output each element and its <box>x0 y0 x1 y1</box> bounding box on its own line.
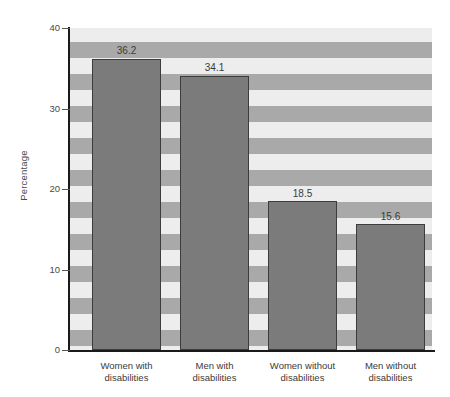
y-tick-mark-30 <box>62 109 70 110</box>
bar-value-men-with-disabilities: 34.1 <box>180 62 249 73</box>
x-axis-label-men-with-disabilities: Men with disabilities <box>165 360 264 383</box>
y-tick-label-40: 40 <box>26 23 60 33</box>
y-tick-mark-20 <box>62 189 70 190</box>
y-axis-title: Percentage <box>18 116 29 236</box>
y-tick-label-10: 10 <box>26 265 60 275</box>
y-tick-label-20: 20 <box>26 184 60 194</box>
bar-value-women-without-disabilities: 18.5 <box>268 188 337 199</box>
bar-men-with-disabilities[interactable] <box>180 76 249 351</box>
x-axis-label-women-with-disabilities: Women with disabilities <box>77 360 176 383</box>
x-axis-label-line-1: Men with <box>165 360 264 372</box>
x-axis-line <box>68 350 435 352</box>
y-tick-mark-40 <box>62 28 70 29</box>
x-axis-label-line-1: Women without <box>251 360 354 372</box>
x-axis-label-line-2: disabilities <box>77 372 176 384</box>
y-tick-mark-10 <box>62 270 70 271</box>
y-tick-label-30: 30 <box>26 104 60 114</box>
y-tick-label-0: 0 <box>26 345 60 355</box>
x-axis-label-women-without-disabilities: Women without disabilities <box>251 360 354 383</box>
bar-women-without-disabilities[interactable] <box>268 201 337 350</box>
bar-men-without-disabilities[interactable] <box>356 224 425 350</box>
x-axis-label-men-without-disabilities: Men without disabilities <box>341 360 440 383</box>
x-axis-label-line-2: disabilities <box>341 372 440 384</box>
bar-value-men-without-disabilities: 15.6 <box>356 211 425 222</box>
x-axis-label-line-2: disabilities <box>251 372 354 384</box>
x-axis-label-line-2: disabilities <box>165 372 264 384</box>
x-axis-label-line-1: Men without <box>341 360 440 372</box>
bar-chart-figure: Percentage 40 30 20 10 0 36.2 34.1 18.5 … <box>0 0 450 397</box>
bar-value-women-with-disabilities: 36.2 <box>92 45 161 56</box>
bar-women-with-disabilities[interactable] <box>92 59 161 350</box>
x-axis-label-line-1: Women with <box>77 360 176 372</box>
y-tick-mark-0 <box>62 350 70 351</box>
